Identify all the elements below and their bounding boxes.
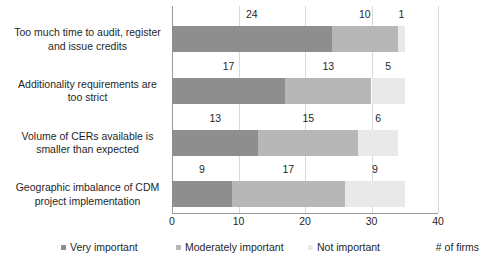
- bar-row: 9179: [172, 161, 438, 213]
- bar-segment[interactable]: [172, 130, 258, 156]
- gridline-40: [438, 6, 439, 213]
- category-label-2-line-1: smaller than expected: [6, 143, 169, 157]
- category-label-3-line-1: project implementation: [6, 195, 169, 209]
- bar-row: 17135: [172, 58, 438, 110]
- bar-segment[interactable]: [345, 181, 405, 207]
- legend-item[interactable]: Moderately important: [176, 241, 284, 253]
- legend-label: Moderately important: [185, 241, 284, 253]
- data-label: 1: [399, 7, 405, 21]
- category-axis-labels: Too much time to audit, register and iss…: [6, 6, 169, 213]
- x-tick-label: 0: [169, 215, 175, 227]
- x-tick-label: 40: [432, 215, 444, 227]
- x-tick-label: 20: [299, 215, 311, 227]
- legend-item[interactable]: Not important: [308, 241, 380, 253]
- category-label-2: Volume of CERs available is smaller than…: [6, 130, 169, 157]
- x-axis-title: # of firms: [436, 241, 479, 253]
- category-label-3: Geographic imbalance of CDM project impl…: [6, 181, 169, 208]
- data-label: 13: [322, 59, 334, 73]
- bar-segment[interactable]: [172, 26, 332, 52]
- bar-segment[interactable]: [285, 78, 371, 104]
- data-label: 9: [372, 162, 378, 176]
- legend-swatch-icon: [176, 245, 181, 250]
- bar-segment[interactable]: [332, 26, 399, 52]
- category-label-2-line-0: Volume of CERs available is: [6, 130, 169, 144]
- bar-segment[interactable]: [172, 78, 285, 104]
- bar-segment[interactable]: [258, 130, 358, 156]
- bar-track: [172, 181, 438, 207]
- data-label: 15: [302, 111, 314, 125]
- x-axis-tick-labels: 010203040: [172, 215, 438, 231]
- bar-row: 13156: [172, 110, 438, 162]
- category-label-0: Too much time to audit, register and iss…: [6, 26, 169, 53]
- data-label: 10: [359, 7, 371, 21]
- data-label: 13: [209, 111, 221, 125]
- category-label-1-line-1: too strict: [6, 91, 169, 105]
- chart-legend: # of firms Very importantModerately impo…: [0, 241, 489, 261]
- legend-label: Not important: [317, 241, 380, 253]
- legend-swatch-icon: [308, 245, 313, 250]
- bar-segment[interactable]: [358, 130, 398, 156]
- data-label: 24: [246, 7, 258, 21]
- legend-item[interactable]: Very important: [61, 241, 138, 253]
- data-label: 17: [223, 59, 235, 73]
- x-axis-line: [172, 213, 438, 214]
- legend-swatch-icon: [61, 245, 66, 250]
- plot-area: 2410117135131569179: [172, 6, 438, 213]
- bar-segment[interactable]: [398, 26, 405, 52]
- category-label-0-line-0: Too much time to audit, register: [6, 26, 169, 40]
- category-label-3-line-0: Geographic imbalance of CDM: [6, 181, 169, 195]
- legend-label: Very important: [70, 241, 138, 253]
- data-label: 17: [283, 162, 295, 176]
- stacked-bar-chart: Too much time to audit, register and iss…: [0, 0, 489, 269]
- bar-segment[interactable]: [172, 181, 232, 207]
- bar-segment[interactable]: [232, 181, 345, 207]
- bar-segment[interactable]: [372, 78, 405, 104]
- bar-row: 24101: [172, 6, 438, 58]
- category-label-0-line-1: and issue credits: [6, 40, 169, 54]
- bar-track: [172, 78, 438, 104]
- data-label: 5: [385, 59, 391, 73]
- data-label: 6: [375, 111, 381, 125]
- category-label-1-line-0: Additionality requirements are: [6, 78, 169, 92]
- bar-track: [172, 130, 438, 156]
- x-tick-label: 10: [233, 215, 245, 227]
- category-label-1: Additionality requirements are too stric…: [6, 78, 169, 105]
- data-label: 9: [199, 162, 205, 176]
- x-tick-label: 30: [366, 215, 378, 227]
- bar-track: [172, 26, 438, 52]
